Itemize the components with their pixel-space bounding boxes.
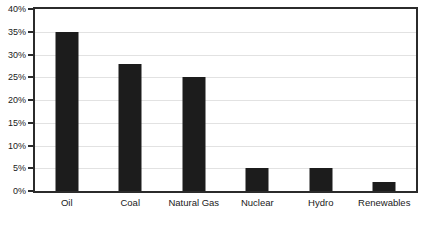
y-axis-tick: 40% <box>0 3 33 15</box>
y-axis-tick-label: 35% <box>8 26 26 38</box>
bar-chart: 40% 35% 30% 25% 20% 15% 10% 5% <box>0 0 422 231</box>
y-axis-tick-label: 30% <box>8 49 26 61</box>
y-axis-tick: 30% <box>0 49 33 61</box>
y-axis-tick: 20% <box>0 94 33 106</box>
y-axis-tick-label: 20% <box>8 94 26 106</box>
x-axis: Oil Coal Natural Gas Nuclear Hydro Renew… <box>33 196 418 216</box>
gridlines <box>35 9 416 191</box>
y-axis-tick-label: 5% <box>13 162 26 174</box>
y-axis-tick: 25% <box>0 71 33 83</box>
y-axis-tick-label: 10% <box>8 140 26 152</box>
y-axis-tick: 10% <box>0 140 33 152</box>
y-axis-tick-label: 15% <box>8 117 26 129</box>
gridline <box>35 77 416 78</box>
gridline <box>35 146 416 147</box>
gridline <box>35 55 416 56</box>
gridline <box>35 168 416 169</box>
plot-area <box>33 7 418 193</box>
y-axis-tick-label: 25% <box>8 71 26 83</box>
gridline <box>35 100 416 101</box>
y-axis-tick: 5% <box>0 162 33 174</box>
gridline <box>35 32 416 33</box>
gridline <box>35 123 416 124</box>
y-axis-tick: 35% <box>0 26 33 38</box>
x-axis-label-renewables: Renewables <box>336 196 422 210</box>
y-axis-tick: 15% <box>0 117 33 129</box>
y-axis-tick-label: 40% <box>8 3 26 15</box>
